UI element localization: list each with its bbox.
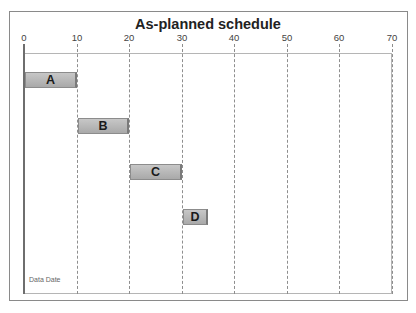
x-tick-label: 70	[387, 32, 398, 43]
plot-area	[24, 53, 392, 294]
task-bar-c: C	[130, 164, 182, 180]
task-bar-d: D	[183, 209, 208, 225]
x-tick-label: 40	[229, 32, 240, 43]
x-tick-label: 10	[72, 32, 83, 43]
gridline-30	[182, 44, 183, 294]
x-tick-label: 20	[124, 32, 135, 43]
x-tick-label: 30	[177, 32, 188, 43]
data-date-label: Data Date	[29, 276, 61, 283]
gridline-60	[339, 44, 340, 294]
x-tick-label: 60	[334, 32, 345, 43]
gridline-70	[392, 44, 393, 294]
gridline-40	[234, 44, 235, 294]
x-tick-label: 50	[282, 32, 293, 43]
task-bar-a: A	[25, 72, 77, 88]
x-tick-label: 0	[21, 32, 26, 43]
gridline-50	[287, 44, 288, 294]
gridline-10	[77, 44, 78, 294]
task-bar-b: B	[78, 118, 129, 134]
chart-title: As-planned schedule	[0, 16, 416, 32]
